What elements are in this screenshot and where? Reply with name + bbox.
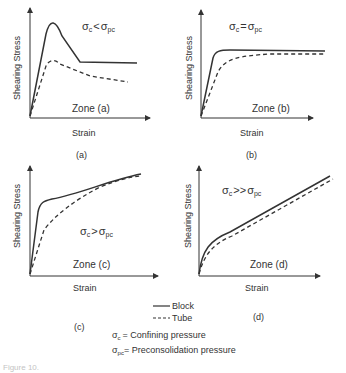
- x-axis-label-a: Strain: [72, 128, 96, 138]
- condition-b: σc=σpc: [229, 20, 262, 34]
- condition-c: σc>σpc: [80, 225, 113, 239]
- y-axis-label-d: Shearing Stress: [183, 183, 193, 248]
- panel-b: Shearing Stress Zone (b) Strain (b) σc=σ…: [184, 10, 325, 160]
- condition-d: σc>>σpc: [222, 184, 262, 198]
- x-axis-label-d: Strain: [245, 283, 269, 293]
- x-axis-label-b: Strain: [240, 128, 264, 138]
- x-axis-label-c: Strain: [73, 283, 97, 293]
- y-axis-label-c: Shearing Stress: [12, 183, 22, 248]
- y-axis-label-b: Shearing Stress: [184, 35, 194, 100]
- panel-a: Shearing Stress Zone (a) Strain (a) σc<σ…: [12, 8, 150, 160]
- zone-label-a: Zone (a): [72, 103, 110, 114]
- panel-c: Shearing Stress Zone (c) Strain (c) σc>σ…: [12, 166, 158, 332]
- figure-caption: Figure 10.: [3, 363, 39, 372]
- caption-c: (c): [74, 322, 85, 332]
- legend: Block Tube σc= Confining pressure σpc= P…: [112, 301, 236, 356]
- panel-d: Shearing Stress Zone (d) Strain (d) σc>>…: [183, 166, 333, 322]
- zone-label-d: Zone (d): [250, 259, 288, 270]
- caption-a: (a): [76, 150, 87, 160]
- legend-block-label: Block: [172, 301, 195, 311]
- definition-confining: σc= Confining pressure: [112, 330, 206, 341]
- definition-preconsolidation: σpc= Preconsolidation pressure: [112, 345, 236, 356]
- zone-label-b: Zone (b): [252, 103, 290, 114]
- figure: Shearing Stress Zone (a) Strain (a) σc<σ…: [0, 0, 346, 373]
- condition-a: σc<σpc: [82, 20, 115, 34]
- zone-label-c: Zone (c): [73, 259, 110, 270]
- caption-b: (b): [246, 150, 257, 160]
- caption-d: (d): [253, 312, 264, 322]
- legend-tube-label: Tube: [172, 313, 192, 323]
- y-axis-label-a: Shearing Stress: [12, 35, 22, 100]
